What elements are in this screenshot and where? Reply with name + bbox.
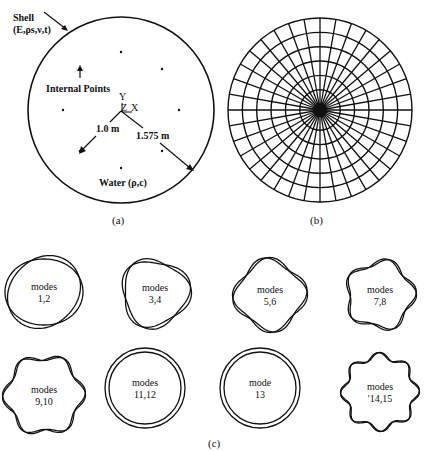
mode-label: modes [31, 281, 57, 292]
mode-label: modes [367, 381, 393, 392]
mode-numbers: 3,4 [149, 294, 162, 305]
panel-a-geometry: Shell (E,ρs,ν,t) Internal Points Y Z X 1… [13, 12, 214, 227]
mode-numbers: 5,6 [264, 296, 277, 307]
mode-numbers: 13 [255, 389, 265, 400]
caption-b: (b) [310, 214, 323, 227]
mode-label: modes [257, 284, 283, 295]
mode-numbers: 1,2 [38, 293, 51, 304]
figure: Shell (E,ρs,ν,t) Internal Points Y Z X 1… [0, 0, 434, 451]
outer-radius-line [121, 111, 143, 128]
internal-point [161, 68, 163, 70]
mode-shapes: modes1,2modes3,4modes5,6modes7,8modes9,1… [3, 256, 420, 434]
axis-y-label: Y [119, 91, 126, 102]
axis-x-label: X [131, 102, 139, 113]
mode-numbers: 7,8 [374, 296, 387, 307]
shell-params-label: (E,ρs,ν,t) [13, 24, 51, 36]
panel-c-mode-shapes: modes1,2modes3,4modes5,6modes7,8modes9,1… [3, 256, 420, 450]
mode-label: mode [249, 377, 272, 388]
mode-numbers: '14,15 [368, 393, 392, 404]
caption-c: (c) [208, 437, 221, 450]
mode-shape-4: modes7,8 [347, 259, 417, 330]
internal-point [62, 109, 64, 111]
inner-radius-line [110, 111, 121, 122]
inner-radius-line-2 [82, 136, 96, 150]
mode-label: modes [142, 282, 168, 293]
internal-point [120, 51, 122, 53]
mode-shape-7: mode13 [220, 348, 300, 428]
inner-radius-label: 1.0 m [96, 123, 120, 134]
internal-points-arrowhead [77, 65, 83, 71]
mode-shape-8: modes'14,15 [341, 353, 420, 432]
mode-shape-1: modes1,2 [5, 256, 83, 329]
mode-numbers: 9,10 [35, 396, 53, 407]
mode-shape-5: modes9,10 [3, 356, 86, 433]
mode-label: modes [367, 284, 393, 295]
mode-shape-6: modes11,12 [105, 348, 185, 428]
internal-point [178, 109, 180, 111]
outer-radius-line-2 [160, 143, 190, 168]
shell-label: Shell [13, 12, 34, 23]
mode-label: modes [31, 384, 57, 395]
panel-b-mesh: (b) [228, 18, 412, 227]
mode-shape-3: modes5,6 [233, 258, 308, 333]
internal-points-label: Internal Points [46, 83, 110, 94]
mode-numbers: 11,12 [134, 389, 156, 400]
water-label: Water (ρ,c) [99, 177, 147, 189]
caption-a: (a) [112, 214, 125, 227]
outer-radius-label: 1.575 m [136, 130, 170, 141]
mesh-grid [228, 18, 412, 202]
mode-label: modes [132, 377, 158, 388]
mode-shape-2: modes3,4 [122, 259, 191, 330]
internal-point [161, 150, 163, 152]
mesh-center [313, 103, 327, 117]
internal-point [120, 167, 122, 169]
